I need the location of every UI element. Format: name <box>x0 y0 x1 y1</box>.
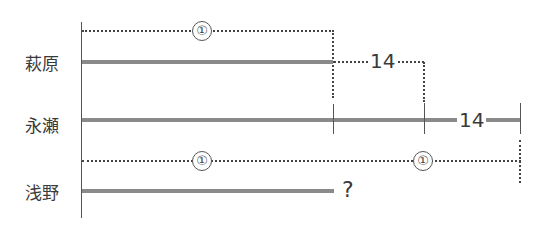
top-bracket-drop <box>332 30 334 98</box>
row-label-hagiwara: 萩原 <box>25 50 59 75</box>
bar-nagase <box>82 118 520 122</box>
asano-unknown-label: ? <box>342 179 354 201</box>
bottom-bracket-line <box>82 160 521 162</box>
hagiwara-gap-drop <box>423 62 425 102</box>
bar-asano <box>82 189 334 193</box>
bottom-bracket-drop <box>519 140 521 183</box>
tick-424 <box>424 103 425 134</box>
tick-520 <box>520 103 521 134</box>
bar-hagiwara <box>82 60 333 64</box>
row-label-asano: 浅野 <box>25 179 59 204</box>
top-bracket-circle-label: ① <box>192 21 212 41</box>
bottom-bracket-circle-label-2: ① <box>413 151 433 171</box>
tick-333 <box>333 104 334 134</box>
row-label-nagase: 永瀬 <box>25 112 59 137</box>
nagase-tail-label: 14 <box>457 109 486 131</box>
hagiwara-gap-label: 14 <box>368 50 397 72</box>
bottom-bracket-circle-label-1: ① <box>192 151 212 171</box>
